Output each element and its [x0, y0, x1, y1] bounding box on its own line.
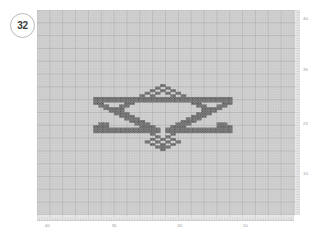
pattern-number-badge[interactable]: 32 [10, 13, 35, 38]
vertical-ruler-ticks [294, 10, 300, 215]
x-tick-label: 20 [177, 224, 182, 228]
y-tick-label: 35 [303, 68, 308, 72]
pattern-canvas[interactable] [37, 10, 294, 215]
x-tick-label: 10 [243, 224, 248, 228]
horizontal-ruler-labels: 40302010 [37, 224, 294, 232]
stitch-layer[interactable] [37, 10, 294, 215]
pattern-editor-window: 32 40302010 40352510 [0, 0, 328, 244]
x-tick-label: 40 [45, 224, 50, 228]
y-tick-label: 10 [303, 172, 308, 176]
horizontal-ruler [37, 215, 294, 221]
pattern-number-label: 32 [17, 21, 28, 31]
x-tick-label: 30 [112, 224, 117, 228]
horizontal-ruler-ticks [37, 215, 294, 221]
y-tick-label: 25 [303, 122, 308, 126]
y-tick-label: 40 [303, 17, 308, 21]
vertical-ruler-labels: 40352510 [303, 10, 325, 215]
vertical-ruler [294, 10, 300, 215]
